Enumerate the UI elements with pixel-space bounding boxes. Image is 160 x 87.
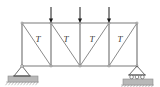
ground-hatch-stroke bbox=[136, 85, 139, 87]
ground-hatch-right bbox=[121, 85, 155, 87]
ground-hatch-stroke bbox=[145, 85, 148, 87]
diagonal-panel-2 bbox=[51, 23, 80, 66]
ground-hatch-stroke bbox=[148, 85, 151, 87]
ground-hatch-stroke bbox=[21, 82, 24, 85]
ground-hatch-stroke bbox=[139, 85, 142, 87]
load-arrows bbox=[49, 7, 111, 23]
support-roller-right-roller-1 bbox=[130, 75, 134, 79]
support-roller-right-roller-2 bbox=[135, 75, 139, 79]
ground-hatch-stroke bbox=[12, 82, 15, 85]
ground-hatch-stroke bbox=[121, 85, 124, 87]
diagonal-panel-4 bbox=[109, 23, 137, 66]
ground-hatch-left bbox=[6, 82, 40, 85]
ground-hatch-stroke bbox=[18, 82, 21, 85]
load-arrow-3-head bbox=[107, 18, 111, 23]
joint-bot-3 bbox=[108, 65, 110, 67]
ground-hatch-stroke bbox=[133, 85, 136, 87]
ground-hatch-stroke bbox=[130, 85, 133, 87]
panel-label-1: T bbox=[35, 34, 41, 44]
joint-bot-2 bbox=[79, 65, 81, 67]
ground-hatch-stroke bbox=[36, 82, 39, 85]
truss-diagram-canvas: TTTT bbox=[0, 0, 160, 87]
panel-label-4: T bbox=[117, 34, 123, 44]
support-roller-right-roller-3 bbox=[141, 75, 145, 79]
ground-hatch-stroke bbox=[15, 82, 18, 85]
load-arrow-1-head bbox=[49, 18, 53, 23]
panel-label-3: T bbox=[89, 34, 95, 44]
ground-hatch-stroke bbox=[142, 85, 145, 87]
diagonal-panel-3 bbox=[80, 23, 109, 66]
joint-top-right bbox=[136, 22, 138, 24]
ground-hatch-stroke bbox=[33, 82, 36, 85]
ground-hatch-stroke bbox=[124, 85, 127, 87]
support-roller-right-ground-pad bbox=[123, 79, 153, 85]
joint-top-left bbox=[21, 22, 23, 24]
truss-figure: TTTT bbox=[0, 0, 160, 87]
load-arrow-2-head bbox=[78, 18, 82, 23]
ground-hatch-stroke bbox=[30, 82, 33, 85]
ground-hatch-stroke bbox=[9, 82, 12, 85]
ground-hatch-stroke bbox=[151, 85, 154, 87]
ground-hatch-stroke bbox=[6, 82, 9, 85]
support-roller-right-triangle bbox=[129, 66, 145, 75]
ground-hatch-stroke bbox=[127, 85, 130, 87]
ground-hatch-stroke bbox=[27, 82, 30, 85]
diagonal-panel-1 bbox=[22, 23, 51, 66]
support-pin-left-ground-pad bbox=[8, 76, 38, 82]
joint-bot-1 bbox=[50, 65, 52, 67]
panel-label-2: T bbox=[63, 34, 69, 44]
truss-verticals bbox=[22, 23, 137, 66]
support-pin-left-pin-hinge bbox=[21, 65, 23, 67]
ground-hatch-stroke bbox=[24, 82, 27, 85]
